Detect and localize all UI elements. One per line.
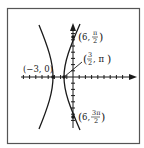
svg-text:2: 2: [88, 59, 92, 67]
point-right-vertex: [62, 75, 66, 79]
label-top-point: ( 6, π 2 ): [78, 29, 103, 45]
svg-text:3π: 3π: [92, 109, 101, 117]
label-left-vertex: (−3, 0): [23, 64, 53, 74]
svg-text:2: 2: [93, 37, 97, 45]
svg-text:(: (: [83, 53, 87, 66]
svg-text:, π: , π: [93, 54, 104, 64]
point-bottom: [71, 115, 75, 119]
y-axis-arrow-icon: [70, 23, 76, 31]
label-right-vertex: ( 3 2 , π ): [83, 51, 111, 67]
x-axis: [21, 74, 137, 80]
svg-text:6,: 6,: [82, 112, 90, 122]
point-left-vertex: [51, 75, 55, 79]
polar-graph: (−3, 0) ( 6, π 2 ) ( 3 2 , π ) ( 6, 3π 2…: [0, 0, 144, 148]
svg-text:): ): [99, 31, 103, 44]
svg-text:2: 2: [94, 117, 98, 125]
svg-text:π: π: [93, 29, 98, 37]
svg-text:6,: 6,: [82, 32, 90, 42]
label-bottom-point: ( 6, 3π 2 ): [78, 109, 105, 125]
svg-text:): ): [107, 53, 111, 66]
x-axis-arrow-icon: [129, 74, 137, 80]
svg-text:): ): [101, 111, 105, 124]
svg-text:3: 3: [88, 51, 92, 59]
point-top: [71, 35, 75, 39]
